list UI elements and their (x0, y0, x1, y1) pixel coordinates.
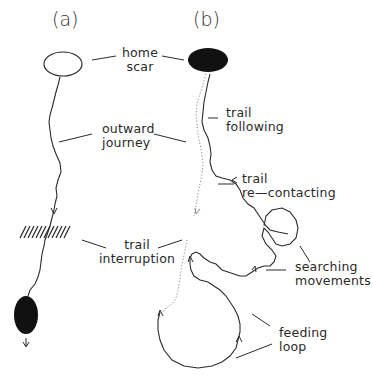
trail-interruption-hatch (20, 226, 70, 238)
limpet-a (14, 296, 38, 334)
label-home-scar: home scar (118, 46, 162, 74)
label-line: re—contacting (242, 186, 336, 200)
feeding-arrow-lower-b (158, 310, 163, 316)
label-line: outward (102, 122, 155, 136)
searching-loop-b (262, 208, 298, 266)
label-line: searching (295, 260, 371, 274)
searching-return-path-b (158, 252, 264, 368)
label-line: scar (118, 60, 162, 74)
dotted-outward-trail-b (194, 74, 206, 216)
label-outward-journey: outward journey (102, 122, 155, 150)
label-line: trail (226, 106, 284, 120)
label-line: movements (295, 274, 371, 288)
label-line: loop (279, 340, 327, 354)
limpet-homing-diagram: (a) (b) home scar outward journey trail … (0, 0, 373, 378)
label-searching-movements: searching movements (295, 260, 371, 288)
label-trail-following: trail following (226, 106, 284, 134)
outward-journey-path-a (28, 77, 61, 296)
dotted-arrow-b (195, 208, 200, 214)
home-scar-empty-a (44, 52, 82, 76)
label-line: trail (242, 172, 336, 186)
limpet-home-b (188, 48, 228, 72)
label-line: following (226, 120, 284, 134)
label-line: home (118, 46, 162, 60)
label-line: interruption (96, 252, 178, 266)
label-line: trail (96, 238, 178, 252)
down-arrow-a (23, 338, 29, 347)
label-line: journey (102, 136, 155, 150)
leader-lines (59, 56, 310, 358)
feeding-arrow-b (236, 336, 242, 342)
label-trail-recontacting: trail re—contacting (242, 172, 336, 200)
panel-label-a: (a) (52, 8, 78, 30)
trail-following-path-b (202, 74, 288, 234)
label-trail-interruption: trail interruption (96, 238, 178, 266)
panel-label-b: (b) (193, 8, 220, 30)
label-line: feeding (279, 326, 327, 340)
label-feeding-loop: feeding loop (279, 326, 327, 354)
